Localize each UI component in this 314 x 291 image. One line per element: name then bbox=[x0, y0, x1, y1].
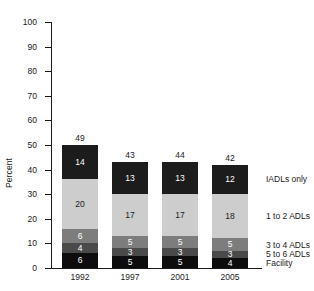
y-axis-tick bbox=[45, 219, 51, 220]
bar-segment: 5 bbox=[112, 256, 148, 268]
bar-segment: 4 bbox=[62, 243, 98, 253]
bar-segment: 12 bbox=[212, 165, 248, 195]
bar-segment: 3 bbox=[162, 248, 198, 255]
bar-segment: 5 bbox=[112, 236, 148, 248]
segment-value-label: 17 bbox=[175, 211, 184, 220]
bar-segment: 5 bbox=[162, 256, 198, 268]
y-axis-tick-label: 30 bbox=[13, 190, 37, 199]
segment-value-label: 5 bbox=[128, 258, 133, 267]
y-axis-tick bbox=[45, 170, 51, 171]
bar-segment: 6 bbox=[62, 229, 98, 244]
y-axis-tick bbox=[45, 194, 51, 195]
y-axis-tick-label: 100 bbox=[13, 18, 37, 27]
bar-segment: 20 bbox=[62, 179, 98, 228]
y-axis-tick-label: 90 bbox=[13, 43, 37, 52]
y-axis-line bbox=[51, 22, 52, 268]
y-axis-tick bbox=[45, 96, 51, 97]
bar-segment: 3 bbox=[212, 251, 248, 258]
bar-2001: 131753544 bbox=[162, 162, 198, 268]
legend-label-1-to-2-adls: 1 to 2 ADLs bbox=[266, 212, 310, 221]
segment-value-label: 20 bbox=[75, 200, 84, 209]
x-axis-label-2005: 2005 bbox=[212, 272, 248, 282]
legend-label-iadls-only: IADLs only bbox=[266, 175, 307, 184]
bar-segment: 17 bbox=[162, 194, 198, 236]
segment-value-label: 6 bbox=[78, 232, 83, 241]
y-axis-tick-label: 0 bbox=[13, 264, 37, 273]
bar-segment: 4 bbox=[212, 258, 248, 268]
y-axis-tick-label: 60 bbox=[13, 116, 37, 125]
x-axis-label-2001: 2001 bbox=[162, 272, 198, 282]
y-axis-tick bbox=[45, 120, 51, 121]
bar-segment: 13 bbox=[162, 162, 198, 194]
bar-total-label: 49 bbox=[62, 134, 98, 143]
segment-value-label: 5 bbox=[128, 238, 133, 247]
y-axis-tick-label: 40 bbox=[13, 166, 37, 175]
segment-value-label: 5 bbox=[178, 238, 183, 247]
bar-segment: 17 bbox=[112, 194, 148, 236]
bar-segment: 18 bbox=[212, 194, 248, 238]
y-axis-tick bbox=[45, 22, 51, 23]
x-axis-label-1992: 1992 bbox=[62, 272, 98, 282]
y-axis-tick-label: 20 bbox=[13, 215, 37, 224]
legend-label-facility: Facility bbox=[266, 259, 292, 268]
bar-segment: 14 bbox=[62, 145, 98, 179]
segment-value-label: 17 bbox=[125, 211, 134, 220]
bar-segment: 5 bbox=[212, 238, 248, 250]
bar-1992: 142064649 bbox=[62, 145, 98, 268]
segment-value-label: 4 bbox=[228, 259, 233, 268]
bar-segment: 3 bbox=[112, 248, 148, 255]
y-axis-tick bbox=[45, 243, 51, 244]
legend-label-3-to-4-adls: 3 to 4 ADLs bbox=[266, 241, 310, 250]
segment-value-label: 18 bbox=[225, 212, 234, 221]
segment-value-label: 14 bbox=[75, 158, 84, 167]
x-axis-line bbox=[51, 268, 262, 269]
y-axis-tick-label: 70 bbox=[13, 92, 37, 101]
y-axis-tick bbox=[45, 145, 51, 146]
y-axis-tick bbox=[45, 47, 51, 48]
y-axis-tick-label: 10 bbox=[13, 239, 37, 248]
x-axis-label-1997: 1997 bbox=[112, 272, 148, 282]
segment-value-label: 6 bbox=[78, 256, 83, 265]
y-axis-tick bbox=[45, 71, 51, 72]
stacked-bar-chart: Percent 1009080706050403020100 142064649… bbox=[0, 0, 314, 291]
segment-value-label: 12 bbox=[225, 175, 234, 184]
segment-value-label: 13 bbox=[125, 174, 134, 183]
y-axis-tick-label: 50 bbox=[13, 141, 37, 150]
segment-value-label: 5 bbox=[228, 240, 233, 249]
segment-value-label: 5 bbox=[178, 258, 183, 267]
y-axis-tick bbox=[45, 268, 51, 269]
y-axis-tick-label: 80 bbox=[13, 67, 37, 76]
segment-value-label: 13 bbox=[175, 174, 184, 183]
segment-value-label: 4 bbox=[78, 244, 83, 253]
bar-segment: 13 bbox=[112, 162, 148, 194]
bar-2005: 121853442 bbox=[212, 165, 248, 268]
bar-total-label: 43 bbox=[112, 151, 148, 160]
bar-segment: 6 bbox=[62, 253, 98, 268]
bar-total-label: 44 bbox=[162, 151, 198, 160]
bar-total-label: 42 bbox=[212, 154, 248, 163]
bar-segment: 5 bbox=[162, 236, 198, 248]
bar-1997: 131753543 bbox=[112, 162, 148, 268]
